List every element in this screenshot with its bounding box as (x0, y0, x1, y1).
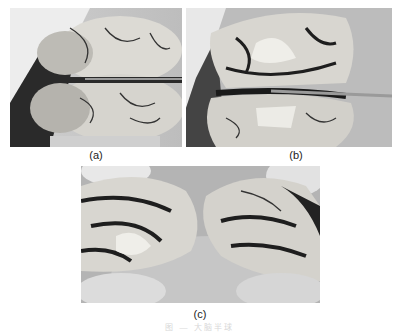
figure-panel-c (81, 166, 320, 303)
brain-photo-a (10, 8, 182, 147)
panel-label-b: (b) (276, 149, 316, 161)
figure-panel-b (186, 8, 392, 147)
panel-label-a: (a) (76, 149, 116, 161)
figure-caption: 图 — 大脑半球 (0, 321, 399, 332)
brain-photo-c (81, 166, 320, 303)
figure-panel-a (10, 8, 182, 147)
panel-label-c: (c) (180, 308, 220, 320)
brain-photo-b (186, 8, 392, 147)
